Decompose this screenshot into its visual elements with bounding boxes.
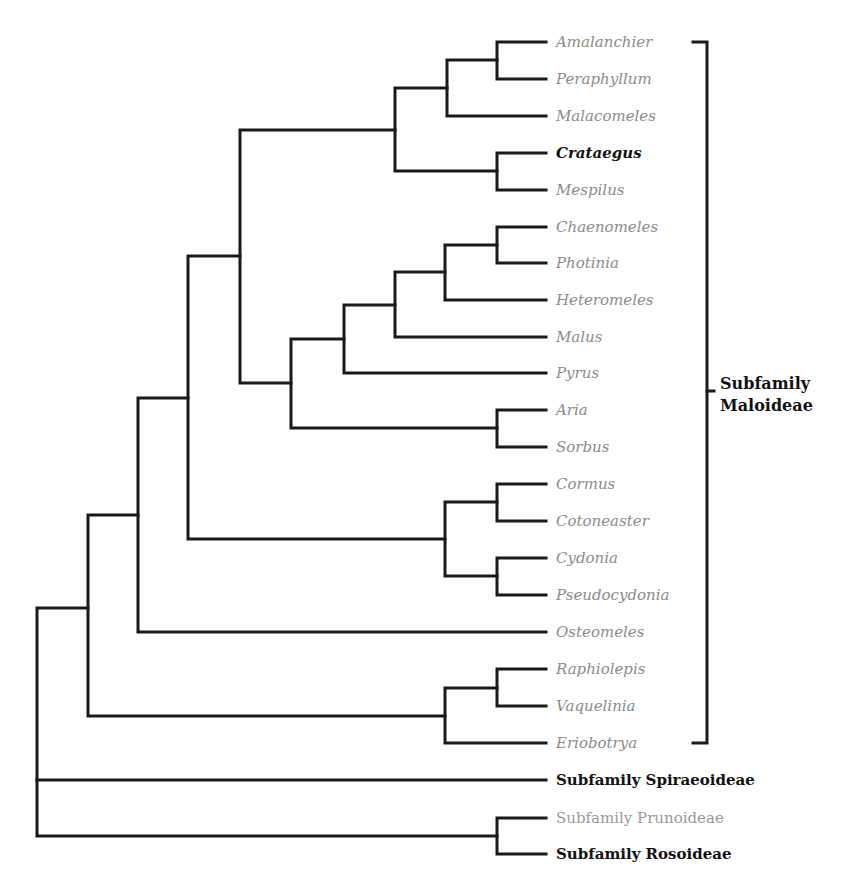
taxon-label-eriobotrya: Eriobotrya (556, 733, 637, 753)
branch-crataegus-mespilus (497, 153, 546, 190)
maloideae-label: Subfamily Maloideae (720, 373, 813, 417)
branch-chaenomeles-photinia (497, 227, 546, 263)
branch-upper-clade (240, 130, 395, 383)
branch-pyrus (344, 305, 546, 373)
taxon-label-cormus: Cormus (556, 474, 615, 494)
subfamily-label-rosoideae: Subfamily Rosoideae (556, 844, 732, 864)
taxon-label-crataegus: Crataegus (556, 143, 642, 163)
taxon-label-aria: Aria (556, 400, 588, 420)
taxon-label-peraphyllum: Peraphyllum (556, 69, 652, 89)
branch-cydonia-pseudocydonia (497, 558, 546, 595)
taxon-label-raphiolepis: Raphiolepis (556, 659, 645, 679)
branch-maloideae-core (188, 256, 445, 539)
maloideae-label-line1: Subfamily (720, 373, 813, 395)
taxon-label-chaenomeles: Chaenomeles (556, 217, 658, 237)
taxon-label-malus: Malus (556, 327, 602, 347)
branch-root (37, 608, 497, 836)
branch-maloideae-root (88, 515, 445, 716)
branch-raphiolepis-vaquelinia (497, 669, 546, 706)
taxon-label-cydonia: Cydonia (556, 548, 618, 568)
taxon-label-sorbus: Sorbus (556, 437, 609, 457)
subfamily-label-prunoideae: Subfamily Prunoideae (556, 808, 724, 828)
taxon-label-heteromeles: Heteromeles (556, 290, 654, 310)
taxon-label-malacomeles: Malacomeles (556, 106, 656, 126)
branch-osteomeles (138, 398, 546, 632)
taxon-label-mespilus: Mespilus (556, 180, 625, 200)
branch-malus (395, 272, 546, 337)
branch-prunoideae-rosoideae (497, 818, 546, 854)
branch-pyrus-aria-clade (291, 339, 497, 428)
taxon-label-vaquelinia: Vaquelinia (556, 696, 636, 716)
branch-cormus-cotoneaster (497, 484, 546, 521)
branch-amalanchier-peraphyllum (497, 42, 546, 79)
maloideae-label-line2: Maloideae (720, 395, 813, 417)
maloideae-bracket (693, 42, 707, 743)
taxon-label-amalanchier: Amalanchier (556, 32, 652, 52)
taxon-label-cotoneaster: Cotoneaster (556, 511, 649, 531)
taxon-label-osteomeles: Osteomeles (556, 622, 644, 642)
branch-cotoneaster-cydonia-clade (445, 502, 497, 576)
taxon-label-pseudocydonia: Pseudocydonia (556, 585, 669, 605)
subfamily-label-spiraeoideae: Subfamily Spiraeoideae (556, 770, 755, 790)
taxon-label-photinia: Photinia (556, 253, 619, 273)
branch-aria-sorbus (497, 410, 546, 447)
phylogenetic-tree (0, 0, 858, 891)
taxon-label-pyrus: Pyrus (556, 363, 599, 383)
